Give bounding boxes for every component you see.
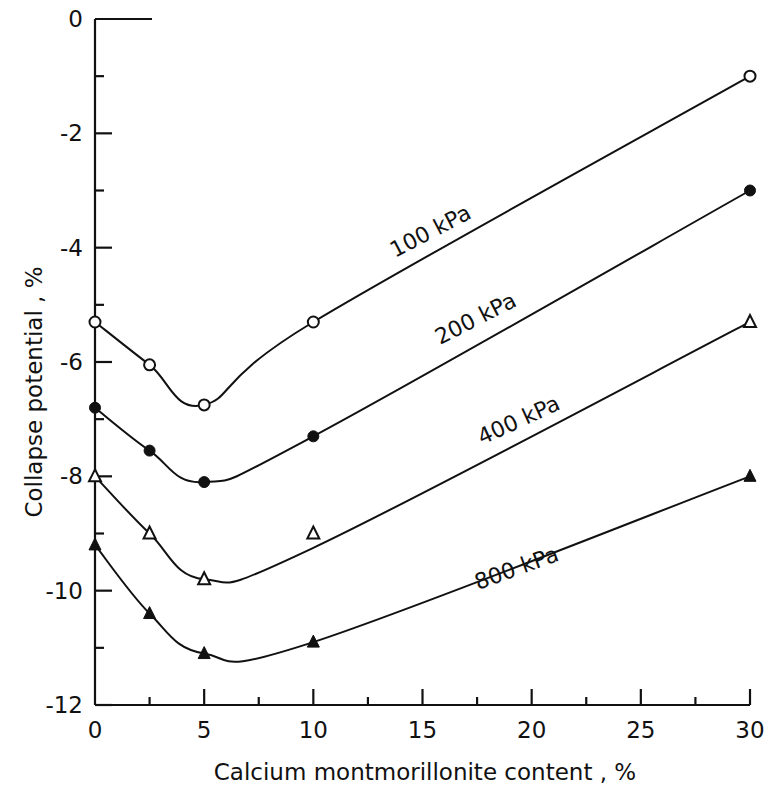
x-tick-label: 10 <box>299 717 328 743</box>
series-label: 200 kPa <box>431 287 520 349</box>
open-circle-marker <box>90 316 101 327</box>
x-tick-label: 30 <box>735 717 764 743</box>
y-tick-label: -8 <box>60 463 83 489</box>
filled-circle-marker <box>90 402 101 413</box>
x-tick-label: 20 <box>517 717 546 743</box>
series-labels: 100 kPa200 kPa400 kPa800 kPa <box>386 200 564 595</box>
collapse-potential-chart: 0-2-4-6-8-10-12051015202530 100 kPa200 k… <box>0 0 771 799</box>
x-axis-title: Calcium montmorillonite content , % <box>214 759 636 785</box>
x-tick-label: 25 <box>626 717 655 743</box>
x-tick-label: 0 <box>88 717 103 743</box>
filled-circle-marker <box>199 477 210 488</box>
x-tick-label: 15 <box>408 717 437 743</box>
open-circle-marker <box>199 399 210 410</box>
series-label: 400 kPa <box>474 391 564 450</box>
curve-400-kpa <box>95 322 750 583</box>
filled-circle-marker <box>308 431 319 442</box>
open-triangle-marker <box>744 315 756 327</box>
y-tick-label: -4 <box>60 235 83 261</box>
y-tick-label: -2 <box>60 120 83 146</box>
open-triangle-marker <box>307 527 319 539</box>
y-axis-title: Collapse potential , % <box>21 266 47 517</box>
open-circle-marker <box>144 359 155 370</box>
filled-triangle-marker <box>744 469 756 481</box>
y-tick-label: 0 <box>68 6 83 32</box>
markers <box>89 71 756 659</box>
filled-triangle-marker <box>89 538 101 550</box>
y-tick-label: -10 <box>45 578 83 604</box>
curves <box>95 76 750 662</box>
open-circle-marker <box>308 316 319 327</box>
series-label: 800 kPa <box>471 541 562 594</box>
tick-labels: 0-2-4-6-8-10-12051015202530 <box>45 6 764 743</box>
open-circle-marker <box>745 71 756 82</box>
filled-circle-marker <box>745 185 756 196</box>
curve-800-kpa <box>95 476 750 661</box>
y-tick-label: -12 <box>45 692 83 718</box>
y-tick-label: -6 <box>60 349 83 375</box>
x-tick-label: 5 <box>197 717 212 743</box>
filled-circle-marker <box>144 445 155 456</box>
series-label: 100 kPa <box>386 200 475 263</box>
